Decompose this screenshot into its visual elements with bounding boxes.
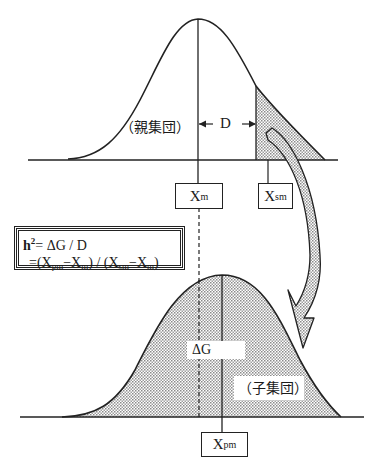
parent-mean-box: Xm (175, 183, 223, 209)
parent-population-label: （親集団） (120, 116, 190, 136)
selected-mean-box: Xsm (258, 183, 293, 209)
formula-line-1: h2= ΔG / D (23, 233, 180, 254)
heritability-formula-box: h2= ΔG / D =(Xpm−Xm) / (Xsm−Xm) (16, 228, 183, 268)
offspring-mean-box: Xpm (201, 432, 248, 457)
offspring-population-label: （子集団） (234, 376, 304, 400)
formula-line-2: =(Xpm−Xm) / (Xsm−Xm) (23, 254, 180, 275)
selection-differential-label: D (218, 115, 233, 132)
genetic-gain-label: ΔG (187, 341, 245, 359)
